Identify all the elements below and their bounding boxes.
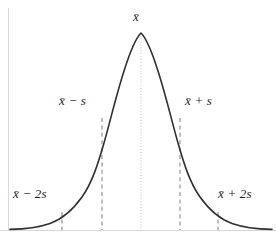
plus-two-sd-label: x̄ + 2s bbox=[218, 187, 252, 200]
bell-curve-figure: x̄ x̄ − s x̄ + s x̄ − 2s x̄ + 2s bbox=[0, 0, 276, 237]
mean-label: x̄ bbox=[133, 10, 139, 23]
minus-two-sd-label: x̄ − 2s bbox=[13, 187, 47, 200]
plus-one-sd-label: x̄ + s bbox=[185, 94, 212, 107]
plot-canvas bbox=[0, 0, 276, 237]
minus-one-sd-label: x̄ − s bbox=[59, 94, 86, 107]
